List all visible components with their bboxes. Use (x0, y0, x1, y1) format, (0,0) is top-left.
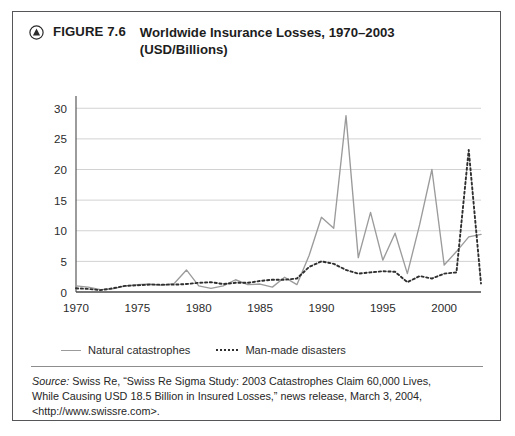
series-line-natural-catastrophes (76, 116, 481, 290)
source-line-3: <http://www.swissre.com>. (32, 404, 484, 419)
legend-item-man-made-disasters: Man-made disasters (216, 344, 346, 356)
legend-swatch-solid-icon (61, 350, 81, 351)
y-tick-label: 25 (54, 132, 67, 145)
x-tick-label: 2000 (431, 301, 457, 314)
y-tick-label: 20 (54, 163, 67, 176)
source-line-1: Source: Swiss Re, “Swiss Re Sigma Study:… (32, 374, 484, 389)
figure-container: FIGURE 7.6 Worldwide Insurance Losses, 1… (12, 11, 501, 421)
chart-x-axis-labels: 1970197519801985199019952000 (63, 301, 457, 314)
chart-plot-area: 051015202530 197019751980198519901995200… (29, 86, 487, 338)
figure-title-line-2: (USD/Billions) (140, 41, 486, 58)
triangle-in-circle-icon (29, 25, 44, 40)
y-tick-label: 15 (54, 194, 67, 207)
figure-header: FIGURE 7.6 Worldwide Insurance Losses, 1… (13, 12, 500, 58)
figure-title-line-1: Worldwide Insurance Losses, 1970–2003 (140, 24, 486, 41)
y-tick-label: 10 (54, 224, 67, 237)
source-note: Source: Swiss Re, “Swiss Re Sigma Study:… (32, 374, 484, 420)
x-tick-label: 1975 (124, 301, 150, 314)
figure-label: FIGURE 7.6 (53, 24, 126, 39)
source-prefix: Source: (32, 375, 69, 387)
x-tick-label: 1995 (370, 301, 396, 314)
x-tick-label: 1985 (247, 301, 273, 314)
legend-swatch-dotted-icon (216, 349, 238, 351)
x-tick-label: 1990 (309, 301, 335, 314)
chart-y-axis-labels: 051015202530 (54, 102, 67, 299)
y-tick-label: 30 (54, 102, 67, 115)
x-tick-label: 1980 (186, 301, 212, 314)
chart-legend: Natural catastrophes Man-made disasters (61, 344, 346, 356)
source-line-2: While Causing USD 18.5 Billion in Insure… (32, 389, 484, 404)
x-tick-label: 1970 (63, 301, 89, 314)
source-divider (31, 366, 483, 367)
legend-label-man-made-disasters: Man-made disasters (245, 344, 346, 356)
legend-item-natural-catastrophes: Natural catastrophes (61, 344, 190, 356)
legend-label-natural-catastrophes: Natural catastrophes (88, 344, 190, 356)
y-tick-label: 5 (61, 255, 67, 268)
page-title: Worldwide Insurance Losses, 1970–2003 (U… (140, 24, 486, 58)
chart-svg: 051015202530 197019751980198519901995200… (29, 86, 487, 338)
chart-gridlines (76, 108, 481, 292)
y-tick-label: 0 (61, 286, 67, 299)
source-text-1: Swiss Re, “Swiss Re Sigma Study: 2003 Ca… (69, 375, 431, 387)
